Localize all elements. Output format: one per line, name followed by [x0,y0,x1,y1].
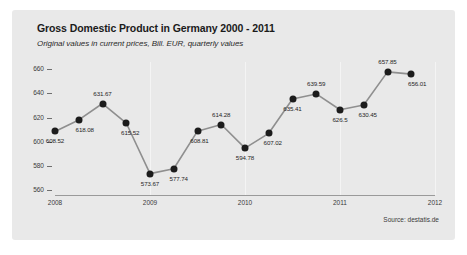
data-point [75,116,82,123]
data-point [170,165,177,172]
x-axis-line [55,195,435,196]
data-point [147,170,154,177]
x-axis-tick-label: 2010 [238,199,252,206]
data-point-label: 607.02 [264,139,282,146]
data-point [218,121,225,128]
y-axis-tick-label: 600 [10,138,44,145]
plot-area: 608.52618.08631.67615.52573.67577.74608.… [55,62,435,195]
y-axis-tick-label: 580 [10,162,44,169]
data-point-label: 615.52 [121,129,139,136]
x-axis-tick-label: 2011 [333,199,347,206]
data-point [360,101,367,108]
y-axis-tick-mark [47,190,52,191]
chart-subtitle: Original values in current prices, Bill.… [37,39,243,48]
data-point-label: 618.08 [76,126,94,133]
data-point [408,71,415,78]
data-point-label: 656.01 [408,80,426,87]
data-point-label: 626.5 [333,116,348,123]
data-point-label: 630.45 [359,111,377,118]
data-point [194,128,201,135]
gridline [435,62,436,195]
series-polyline [55,72,411,174]
data-point [384,68,391,75]
data-point-label: 577.74 [170,175,188,182]
data-point [242,145,249,152]
y-axis-tick-label: 640 [10,89,44,96]
chart-title: Gross Domestic Product in Germany 2000 -… [37,22,275,34]
data-point [52,128,59,135]
data-point-label: 608.52 [46,137,64,144]
y-axis-tick-mark [47,93,52,94]
data-point [289,95,296,102]
data-point-label: 573.67 [141,180,159,187]
x-axis-tick-label: 2012 [428,199,442,206]
y-axis-tick-mark [47,69,52,70]
data-point [313,90,320,97]
data-point-label: 635.41 [283,105,301,112]
series-line [55,62,435,195]
data-point [337,106,344,113]
source-note: Source: destatis.de [383,216,439,223]
data-point-label: 594.78 [236,154,254,161]
data-point-label: 608.81 [190,137,208,144]
data-point-label: 631.67 [93,90,111,97]
data-point-label: 614.28 [212,111,230,118]
data-point-label: 639.59 [307,80,325,87]
chart-screenshot: Gross Domestic Product in Germany 2000 -… [0,0,467,255]
y-axis-tick-label: 620 [10,114,44,121]
data-point [265,130,272,137]
y-axis-tick-mark [47,166,52,167]
y-axis-tick-label: 560 [10,186,44,193]
y-axis-tick-label: 660 [10,65,44,72]
y-axis-tick-mark [47,118,52,119]
x-axis-tick-label: 2009 [143,199,157,206]
x-axis-tick-label: 2008 [48,199,62,206]
data-point-label: 657.85 [378,58,396,65]
data-point [123,120,130,127]
data-point [99,100,106,107]
